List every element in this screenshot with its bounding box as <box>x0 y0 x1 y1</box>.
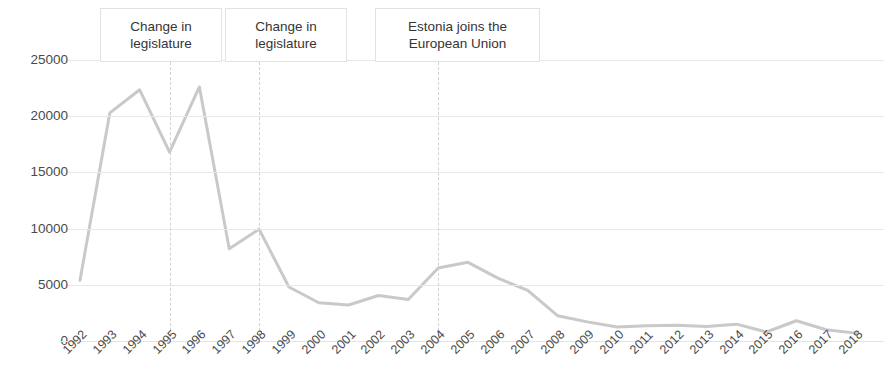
horizontal-gridline <box>68 116 884 117</box>
line-chart: 2500020000150001000050000 19921993199419… <box>0 0 884 392</box>
horizontal-gridline <box>68 172 884 173</box>
y-axis-tick-label: 0 <box>6 334 68 348</box>
y-axis-tick-label: 25000 <box>6 53 68 67</box>
y-axis-tick-label: 10000 <box>6 222 68 236</box>
annotation-change-in-legislature-2: Change in legislature <box>225 8 347 62</box>
annotation-text: Change in legislature <box>107 18 215 53</box>
event-marker-line-2004 <box>438 62 439 341</box>
event-marker-line-1995 <box>170 62 171 341</box>
y-axis-tick-label: 5000 <box>6 278 68 292</box>
x-axis-labels: 1992199319941995199619971998199920002001… <box>68 341 884 392</box>
annotation-text: Change in legislature <box>232 18 340 53</box>
data-line <box>80 87 856 333</box>
annotation-estonia-joins-eu: Estonia joins the European Union <box>375 8 540 62</box>
y-axis: 2500020000150001000050000 <box>0 0 68 392</box>
horizontal-gridline <box>68 285 884 286</box>
annotation-text: Estonia joins the European Union <box>382 18 533 53</box>
annotation-change-in-legislature-1: Change in legislature <box>100 8 222 62</box>
y-axis-tick-label: 15000 <box>6 165 68 179</box>
horizontal-gridline <box>68 229 884 230</box>
y-axis-tick-label: 20000 <box>6 109 68 123</box>
event-marker-line-1998 <box>259 62 260 341</box>
